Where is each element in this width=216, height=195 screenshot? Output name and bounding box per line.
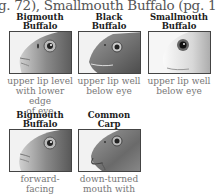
black-buffalo-head-illustration-icon bbox=[78, 31, 141, 74]
fish-name-line2: Buffalo bbox=[76, 22, 142, 31]
fish-card-bigmouth-buffalo-2: Bigmouth Buffalo forward-facing mouth, l… bbox=[7, 110, 73, 195]
caption-line2: mouth with bbox=[76, 184, 142, 194]
caption-line2: with lower edge bbox=[7, 86, 73, 106]
fish-name-line2: Buffalo bbox=[7, 22, 73, 31]
fish-card-black-buffalo: Black Buffalo upper lip well below eye bbox=[76, 12, 142, 96]
fish-card-smallmouth-buffalo: Smallmouth Buffalo upper lip well below … bbox=[146, 12, 212, 96]
fish-title: Common Carp bbox=[76, 110, 142, 128]
fish-name-line2: Buffalo bbox=[7, 120, 73, 129]
fish-title: Black Buffalo bbox=[76, 12, 142, 30]
fish-name-line2: Buffalo bbox=[146, 22, 212, 31]
fish-card-bigmouth-buffalo: Bigmouth Buffalo upper lip level with lo… bbox=[7, 12, 73, 116]
caption-line1: upper lip well bbox=[146, 76, 212, 86]
fish-caption: upper lip well below eye bbox=[146, 76, 212, 96]
caption-line1: upper lip level bbox=[7, 76, 73, 86]
fish-caption: forward-facing mouth, lacks bbox=[7, 174, 73, 195]
caption-line1: forward-facing bbox=[7, 174, 73, 194]
fish-caption: upper lip well below eye bbox=[76, 76, 142, 96]
caption-line2: below eye bbox=[76, 86, 142, 96]
bigmouth-buffalo-head-illustration-icon bbox=[9, 129, 72, 172]
fish-title: Bigmouth Buffalo bbox=[7, 110, 73, 128]
fish-caption: down-turned mouth with bbox=[76, 174, 142, 194]
smallmouth-buffalo-head-illustration-icon bbox=[148, 31, 211, 74]
fish-title: Bigmouth Buffalo bbox=[7, 12, 73, 30]
fish-name-line2: Carp bbox=[76, 120, 142, 129]
fish-card-common-carp: Common Carp down-turned mouth with bbox=[76, 110, 142, 194]
caption-line1: upper lip well bbox=[76, 76, 142, 86]
caption-line2: below eye bbox=[146, 86, 212, 96]
bigmouth-buffalo-head-illustration-icon bbox=[9, 31, 72, 74]
fish-title: Smallmouth Buffalo bbox=[146, 12, 212, 30]
caption-line1: down-turned bbox=[76, 174, 142, 184]
caption-line2: mouth, lacks bbox=[7, 194, 73, 195]
common-carp-head-illustration-icon bbox=[78, 129, 141, 172]
